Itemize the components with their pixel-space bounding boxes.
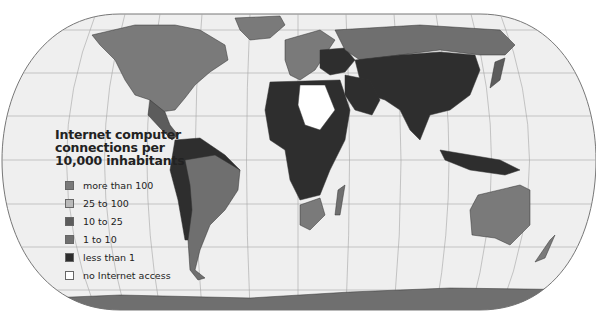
legend-title: Internet computer connections per 10,000… <box>55 128 184 167</box>
swatch-more-than-100 <box>65 181 74 190</box>
swatch-10-to-25 <box>65 217 74 226</box>
legend-item-no-internet: no Internet access <box>65 268 171 282</box>
legend-label: 10 to 25 <box>83 216 123 227</box>
legend-item-1-to-10: 1 to 10 <box>65 232 117 246</box>
swatch-1-to-10 <box>65 235 74 244</box>
legend-label: 25 to 100 <box>83 198 129 209</box>
swatch-less-than-1 <box>65 253 74 262</box>
legend-label: 1 to 10 <box>83 234 117 245</box>
legend-label: no Internet access <box>83 270 171 281</box>
legend-item-more-than-100: more than 100 <box>65 178 153 192</box>
legend-item-25-to-100: 25 to 100 <box>65 196 129 210</box>
legend: Internet computer connections per 10,000… <box>55 128 184 167</box>
legend-item-less-than-1: less than 1 <box>65 250 135 264</box>
legend-title-line3: 10,000 inhabitants <box>55 154 184 167</box>
legend-label: less than 1 <box>83 252 135 263</box>
legend-item-10-to-25: 10 to 25 <box>65 214 123 228</box>
swatch-no-internet <box>65 271 74 280</box>
world-map: Internet computer connections per 10,000… <box>0 0 596 321</box>
legend-label: more than 100 <box>83 180 153 191</box>
swatch-25-to-100 <box>65 199 74 208</box>
